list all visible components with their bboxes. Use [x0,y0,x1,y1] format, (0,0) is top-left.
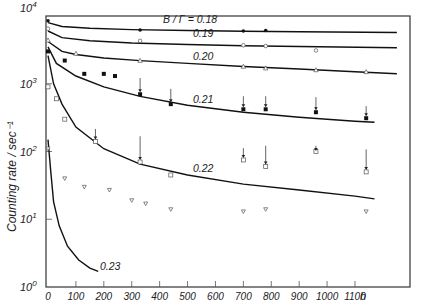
data-point-0.22 [54,97,58,101]
data-point-0.23 [169,208,173,212]
data-point-0.21 [82,72,86,76]
y-axis-label: Counting rate / sec⁻¹ [5,121,19,232]
curve-label-0.22: 0.22 [193,162,214,174]
data-point-0.22 [46,85,50,89]
curve-0.22 [48,56,375,199]
data-point-0.21 [264,107,268,111]
data-point-0.22 [241,158,245,162]
x-tick-label: 1000 [316,291,339,302]
curve-label-0.21: 0.21 [193,93,213,105]
y-tick-label: 103 [20,76,37,90]
curve-0.18 [48,23,397,33]
data-point-0.21 [241,107,245,111]
y-tick-label: 102 [20,144,37,158]
data-point-0.21 [46,49,50,53]
y-tick-label: 101 [20,211,37,225]
data-point-0.19 [242,43,246,47]
x-tick-label: 200 [94,291,112,302]
data-point-0.21 [113,74,117,78]
arrow-head-icon [94,137,98,140]
data-point-0.23 [63,177,67,181]
series-curves [48,23,397,272]
series-points [46,19,369,214]
data-point-0.21 [138,92,142,96]
data-point-0.19 [138,39,142,43]
arrow-head-icon [314,107,318,110]
data-point-0.23 [130,199,134,203]
data-point-0.22 [138,160,142,164]
data-point-0.21 [314,110,318,114]
curve-label-0.19: 0.19 [193,27,214,39]
data-point-0.20 [74,51,78,55]
curve-label-0.23: 0.23 [100,260,121,272]
arrow-head-icon [364,167,368,170]
data-point-0.18 [138,28,142,32]
curve-0.23 [48,140,98,272]
curve-0.20 [48,42,397,74]
data-point-0.22 [93,140,97,144]
y-axis-ticks: 100101102103104 [20,0,52,293]
x-tick-label: 600 [207,291,224,302]
data-point-0.18 [46,19,50,23]
data-point-0.19 [264,44,268,48]
x-tick-label: 400 [151,291,168,302]
arrow-head-icon [138,89,142,92]
arrow-head-icon [364,113,368,116]
data-point-0.23 [364,210,368,214]
data-point-0.19 [314,49,318,53]
data-point-0.18 [264,29,268,33]
arrow-head-icon [264,104,268,107]
x-tick-label: 100 [68,291,85,302]
data-point-0.22 [364,170,368,174]
x-axis-ticks: 010020030040050060070080090010001100 [45,281,366,302]
data-point-0.23 [264,208,268,212]
x-tick-label: 500 [179,291,196,302]
curve-labels: B / Γ = 0.180.190.200.210.220.23 [100,13,217,272]
data-point-0.22 [264,165,268,169]
curve-0.19 [48,31,397,48]
data-point-0.23 [82,185,86,189]
data-point-0.21 [169,102,173,106]
data-point-0.23 [107,188,111,192]
x-tick-label: 900 [291,291,308,302]
y-tick-label: 100 [20,279,37,293]
arrow-head-icon [138,157,142,160]
chart: 010020030040050060070080090010001100 100… [0,0,421,308]
data-point-0.23 [144,202,148,206]
data-point-0.18 [242,29,246,33]
data-point-0.21 [63,59,67,63]
arrow-head-icon [242,155,246,158]
x-tick-label: 0 [45,291,51,302]
arrow-head-icon [242,104,246,107]
plot-frame [46,16,410,287]
curve-label-0.20: 0.20 [193,50,214,62]
curve-label-0.18: B / Γ = 0.18 [163,13,217,25]
x-axis-label: h [360,290,366,302]
data-point-0.21 [364,116,368,120]
data-point-0.22 [63,117,67,121]
data-point-0.19 [46,27,50,31]
arrow-head-icon [264,162,268,165]
x-tick-label: 700 [235,291,252,302]
data-point-0.21 [102,72,106,76]
y-tick-label: 104 [20,0,37,14]
data-point-0.23 [241,210,245,214]
x-tick-label: 800 [263,291,280,302]
data-point-0.22 [169,173,173,177]
x-tick-label: 300 [123,291,140,302]
